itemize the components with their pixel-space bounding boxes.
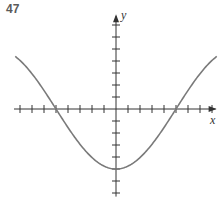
- x-axis-label: x: [209, 113, 216, 127]
- y-axis-arrow-icon: [113, 14, 119, 22]
- y-axis-label: y: [120, 8, 127, 22]
- x-axis-arrow-icon: [209, 106, 217, 112]
- function-graph: x y: [0, 0, 224, 203]
